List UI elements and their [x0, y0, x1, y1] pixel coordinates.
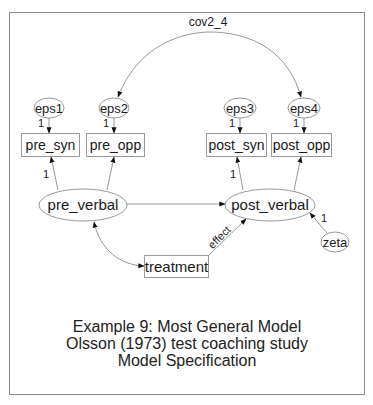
pre-syn-loading: 1	[43, 168, 49, 180]
post-syn-loading: 1	[230, 168, 236, 180]
caption-line-3: Model Specification	[118, 352, 257, 369]
post-opp-label: post_opp	[273, 137, 331, 153]
covariance-label: cov2_4	[189, 15, 228, 29]
caption-line-2: Olsson (1973) test coaching study	[66, 335, 308, 352]
treatment-label: treatment	[145, 258, 209, 275]
pre-verbal-label: pre_verbal	[48, 196, 119, 213]
post-syn-label: post_syn	[208, 137, 264, 153]
caption-line-1: Example 9: Most General Model	[73, 318, 302, 335]
eps1-label: eps1	[35, 101, 63, 116]
pre-syn-label: pre_syn	[26, 137, 76, 153]
post-verbal-label: post_verbal	[231, 196, 309, 213]
eps3-label: eps3	[226, 101, 254, 116]
zeta-label: zeta	[323, 235, 348, 250]
eps4-label: eps4	[290, 101, 318, 116]
sem-diagram: cov2_4 eps1 eps2 eps3 eps4 1 1 1 1 pre_s…	[0, 0, 373, 405]
eps1-loading: 1	[38, 117, 44, 129]
eps4-loading: 1	[293, 117, 299, 129]
eps2-label: eps2	[100, 101, 128, 116]
zeta-loading: 1	[321, 212, 327, 224]
eps2-loading: 1	[103, 117, 109, 129]
pre-opp-label: pre_opp	[90, 137, 142, 153]
eps3-loading: 1	[229, 117, 235, 129]
